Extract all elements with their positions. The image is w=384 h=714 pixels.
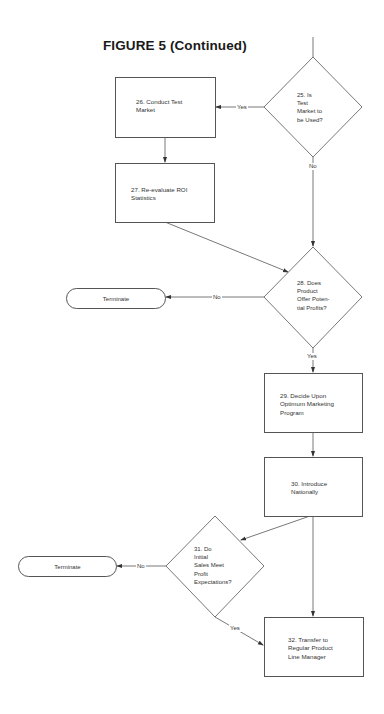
- edge-label-28-yes: Yes: [306, 353, 318, 360]
- process-26-text: 26. Conduct Test Market: [136, 98, 182, 115]
- edge-label-25-no: No: [308, 163, 318, 170]
- process-29-text: 29. Decide Upon Optimum Marketing Progra…: [280, 392, 334, 417]
- decision-31-text: 31. Do Initial Sales Meet Profit Expecta…: [194, 545, 232, 586]
- terminate-2: Terminate: [18, 556, 117, 577]
- decision-25-text: 25. Is Test Market to be Used?: [297, 91, 323, 124]
- process-32-text: 32. Transfer to Regular Product Line Man…: [288, 636, 333, 661]
- edge-label-31-yes: Yes: [229, 625, 241, 632]
- figure-title: FIGURE 5 (Continued): [103, 38, 247, 53]
- edge-label-25-yes: Yes: [236, 104, 248, 111]
- edge-27-28: [165, 222, 288, 272]
- terminate-1: Terminate: [66, 288, 166, 309]
- process-27-text: 27. Re-evaluate ROI Statistics: [131, 186, 187, 203]
- edge-30-31: [241, 516, 310, 540]
- edge-label-31-no: No: [136, 563, 146, 570]
- process-30-text: 30. Introduce Nationally: [291, 480, 327, 497]
- decision-28-text: 28. Does Product Offer Poten- tial Profi…: [297, 279, 330, 312]
- edge-label-28-no: No: [212, 294, 222, 301]
